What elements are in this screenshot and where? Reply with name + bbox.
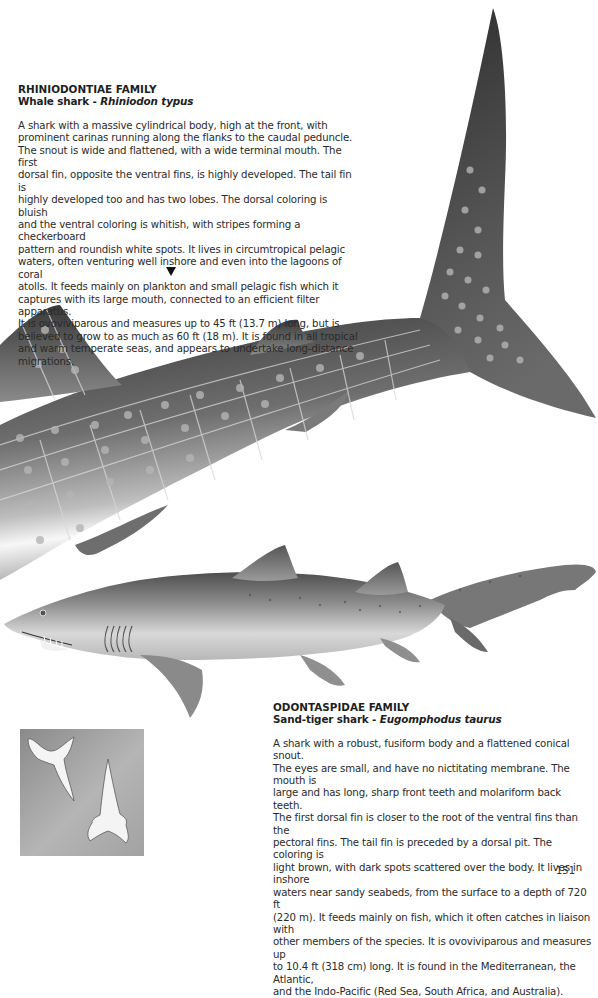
scientific-name: Eugomphodus taurus	[380, 713, 502, 725]
family-heading: RHINIODONTIAE FAMILY	[18, 83, 358, 95]
common-name: Whale shark -	[18, 95, 100, 107]
family-heading: ODONTASPIDAE FAMILY	[273, 701, 593, 713]
sand-tiger-shark-entry: ODONTASPIDAE FAMILY Sand-tiger shark - E…	[273, 701, 593, 998]
species-heading: Whale shark - Rhiniodon typus	[18, 95, 358, 107]
scientific-name: Rhiniodon typus	[100, 95, 193, 107]
sand-tiger-shark-illustration	[4, 545, 596, 718]
species-description: A shark with a massive cylindrical body,…	[18, 120, 358, 368]
down-triangle-icon	[166, 267, 176, 276]
tooth-icon	[88, 759, 128, 843]
species-description: A shark with a robust, fusiform body and…	[273, 738, 593, 998]
species-heading: Sand-tiger shark - Eugomphodus taurus	[273, 713, 593, 725]
common-name: Sand-tiger shark -	[273, 713, 380, 725]
whale-shark-entry: RHINIODONTIAE FAMILY Whale shark - Rhini…	[18, 83, 358, 368]
tooth-icon	[28, 737, 74, 801]
page-number: 151	[556, 866, 575, 874]
shark-teeth-inset	[20, 729, 144, 856]
